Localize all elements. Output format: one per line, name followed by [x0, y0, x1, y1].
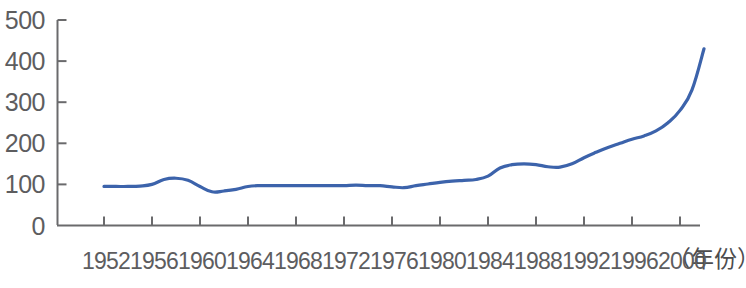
chart-plot-area: [0, 0, 746, 288]
x-tick-label: 2000: [658, 250, 706, 273]
y-tick-label: 0: [0, 214, 45, 239]
x-tick-label: 1984: [466, 250, 514, 273]
line-chart: 5004003002001000 （年份） 195219561960196419…: [0, 0, 746, 288]
x-tick-label: 1980: [418, 250, 466, 273]
x-tick-label: 1996: [610, 250, 658, 273]
x-tick-label: 1992: [562, 250, 610, 273]
y-axis-ticks: [58, 20, 67, 184]
x-tick-label: 1960: [178, 250, 226, 273]
x-tick-label: 1964: [226, 250, 274, 273]
x-tick-label: 1956: [130, 250, 178, 273]
y-tick-label: 200: [0, 131, 45, 156]
x-tick-label: 1988: [514, 250, 562, 273]
data-series-line: [104, 49, 704, 192]
y-tick-label: 400: [0, 49, 45, 74]
y-tick-label: 100: [0, 172, 45, 197]
x-axis-ticks: [104, 217, 680, 226]
x-tick-label: 1976: [370, 250, 418, 273]
y-tick-label: 500: [0, 8, 45, 33]
x-tick-label: 1972: [322, 250, 370, 273]
chart-axes: [57, 20, 700, 226]
y-tick-label: 300: [0, 90, 45, 115]
x-tick-label: 1968: [274, 250, 322, 273]
x-tick-label: 1952: [82, 250, 130, 273]
x-axis-labels: （年份） 19521956196019641968197219761980198…: [40, 250, 746, 284]
